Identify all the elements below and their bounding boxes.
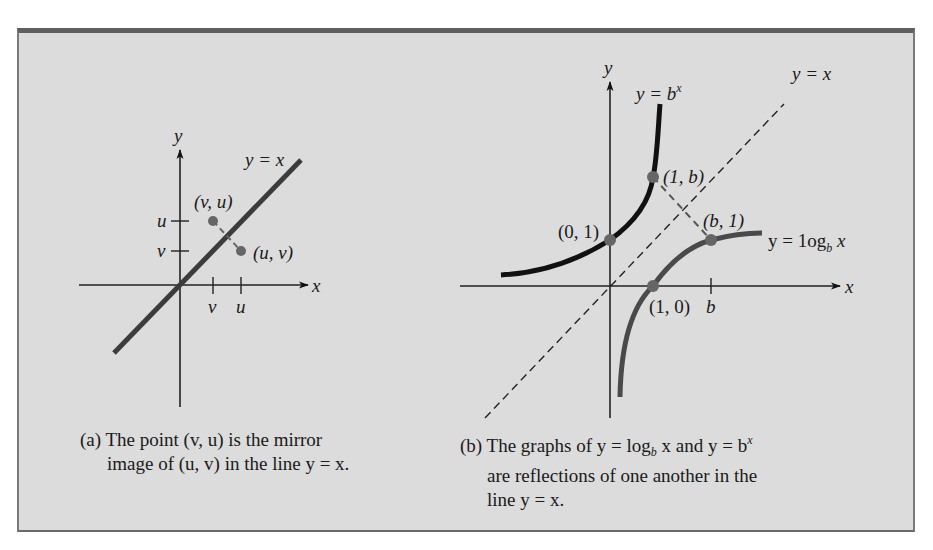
- right-diag-label: y = x: [790, 63, 832, 84]
- left-y-tick-label-v: v: [157, 240, 166, 261]
- point-0-1-label: (0, 1): [558, 221, 599, 243]
- point-1-0: [647, 280, 659, 292]
- caption-a-line2: image of (u, v) in the line y = x.: [80, 452, 349, 476]
- left-x-tick-label-u: u: [236, 296, 246, 317]
- point-1-b-label: (1, b): [663, 166, 704, 188]
- left-x-tick-label-v: v: [208, 296, 217, 317]
- left-x-axis-label: x: [311, 275, 321, 296]
- right-graph: x y b y = x y = bx y = 1ogb x (0, 1) (1,…: [460, 57, 854, 418]
- point-b-1-label: (b, 1): [703, 210, 744, 232]
- log-curve-label: y = 1ogb x: [768, 230, 846, 255]
- left-point-vu-label: (v, u): [194, 191, 233, 213]
- left-graph: x y u v v u y = x (v, u) (u, v): [79, 125, 321, 407]
- point-1-0-label: (1, 0): [649, 296, 690, 318]
- caption-b-line2: are reflections of one another in the: [460, 464, 757, 488]
- left-point-uv: [236, 246, 246, 256]
- point-1-b: [647, 171, 659, 183]
- right-x-tick-label-b: b: [706, 296, 716, 317]
- curve-exponential: [501, 104, 660, 275]
- caption-b-line3: line y = x.: [460, 488, 757, 512]
- exp-curve-label: y = bx: [634, 81, 682, 104]
- left-point-uv-label: (u, v): [253, 242, 293, 264]
- right-x-axis-label: x: [844, 276, 854, 297]
- curve-logarithmic: [620, 233, 762, 397]
- caption-a: (a) The point (v, u) is the mirror image…: [80, 428, 349, 476]
- left-line-label: y = x: [243, 149, 285, 170]
- right-dashed-y-equals-x: [485, 104, 784, 418]
- left-y-axis-label: y: [172, 125, 183, 146]
- caption-a-line1: (a) The point (v, u) is the mirror: [80, 428, 349, 452]
- point-0-1: [604, 234, 616, 246]
- left-y-tick-label-u: u: [157, 210, 167, 231]
- point-b-1: [705, 234, 717, 246]
- right-y-axis-label: y: [602, 57, 613, 78]
- left-point-vu: [208, 216, 218, 226]
- caption-b: (b) The graphs of y = logb x and y = bx …: [460, 428, 757, 512]
- caption-b-line1: (b) The graphs of y = logb x and y = bx: [460, 428, 757, 464]
